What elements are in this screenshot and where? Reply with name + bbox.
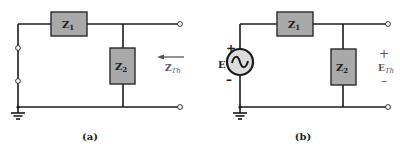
eth-plus: + (379, 47, 389, 61)
source-minus: – (226, 73, 232, 87)
zth-arrow-icon (157, 55, 184, 60)
panel-b: + E – Z1 Z2 + ETh – (b) (218, 12, 394, 142)
open-terminal-a-left-top (16, 46, 21, 51)
caption-a: (a) (82, 131, 98, 142)
zth-label: ZTh (165, 63, 181, 75)
output-terminal-a-top (178, 22, 183, 27)
circuit-diagram: Z1 Z2 ZTh (a) (0, 0, 400, 151)
source-label: E (218, 59, 226, 70)
panel-a: Z1 Z2 ZTh (a) (11, 12, 184, 142)
output-terminal-b-bottom (386, 105, 391, 110)
output-terminal-a-bottom (178, 105, 183, 110)
output-terminal-b-top (386, 22, 391, 27)
open-terminal-a-left-bottom (16, 79, 21, 84)
caption-b: (b) (295, 131, 311, 142)
eth-minus: – (381, 74, 387, 88)
source-plus: + (226, 42, 236, 56)
